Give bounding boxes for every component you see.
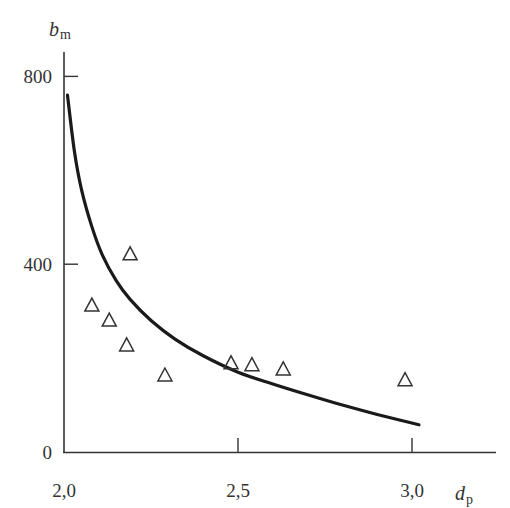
y-tick-label: 0 bbox=[43, 442, 53, 463]
triangle-marker-icon bbox=[245, 358, 259, 371]
data-points bbox=[85, 247, 412, 386]
triangle-marker-icon bbox=[158, 368, 172, 381]
triangle-marker-icon bbox=[102, 313, 116, 326]
x-tick-label: 2,5 bbox=[226, 480, 250, 501]
x-tick-label: 3,0 bbox=[400, 480, 424, 501]
triangle-marker-icon bbox=[85, 298, 99, 311]
triangle-marker-icon bbox=[120, 338, 134, 351]
y-tick-label: 800 bbox=[24, 66, 53, 87]
triangle-marker-icon bbox=[123, 247, 137, 260]
chart: 0400800 2,02,53,0 bm dp bbox=[0, 0, 510, 508]
x-axis-label: dp bbox=[455, 482, 473, 507]
fit-curve bbox=[67, 95, 418, 425]
triangle-marker-icon bbox=[398, 373, 412, 386]
y-tick-label: 400 bbox=[24, 254, 53, 275]
x-ticks: 2,02,53,0 bbox=[52, 438, 424, 501]
y-axis-label: bm bbox=[49, 18, 71, 42]
x-tick-label: 2,0 bbox=[52, 480, 76, 501]
triangle-marker-icon bbox=[276, 362, 290, 375]
